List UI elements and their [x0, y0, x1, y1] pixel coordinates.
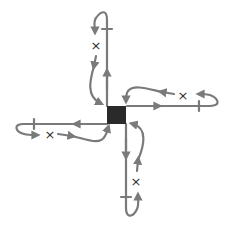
- arm-right: ×: [126, 87, 218, 111]
- arm-left-x-marker: ×: [45, 127, 56, 142]
- arm-right-return-arrow: [162, 92, 174, 94]
- arm-right-loop: [200, 94, 218, 106]
- arm-left: ×: [16, 119, 108, 142]
- arm-left-return-arrow: [58, 134, 72, 136]
- arm-down-return-arrow: [137, 160, 138, 171]
- arm-left-return: [72, 128, 108, 141]
- arm-right-return: [126, 87, 162, 100]
- center-square: [107, 106, 126, 124]
- arm-up-return-arrow: [94, 56, 96, 66]
- arm-right-x-marker: ×: [178, 88, 189, 103]
- arm-down-return: [133, 124, 143, 160]
- pinwheel-diagram: × × × ×: [0, 0, 230, 228]
- arm-down: ×: [121, 124, 143, 216]
- arm-up: ×: [90, 12, 112, 106]
- arm-up-return: [90, 66, 100, 103]
- arm-down-loop: [126, 196, 138, 216]
- arm-up-x-marker: ×: [91, 38, 102, 53]
- arm-down-x-marker: ×: [131, 174, 142, 189]
